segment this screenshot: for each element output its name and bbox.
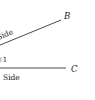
point-c-label: C bbox=[71, 64, 78, 74]
side-lower-label: Side bbox=[3, 73, 20, 82]
angle-diagram: B C Side ∠1 Side bbox=[0, 0, 95, 100]
angle-label: ∠1 bbox=[0, 56, 7, 64]
point-b-label: B bbox=[63, 11, 70, 21]
